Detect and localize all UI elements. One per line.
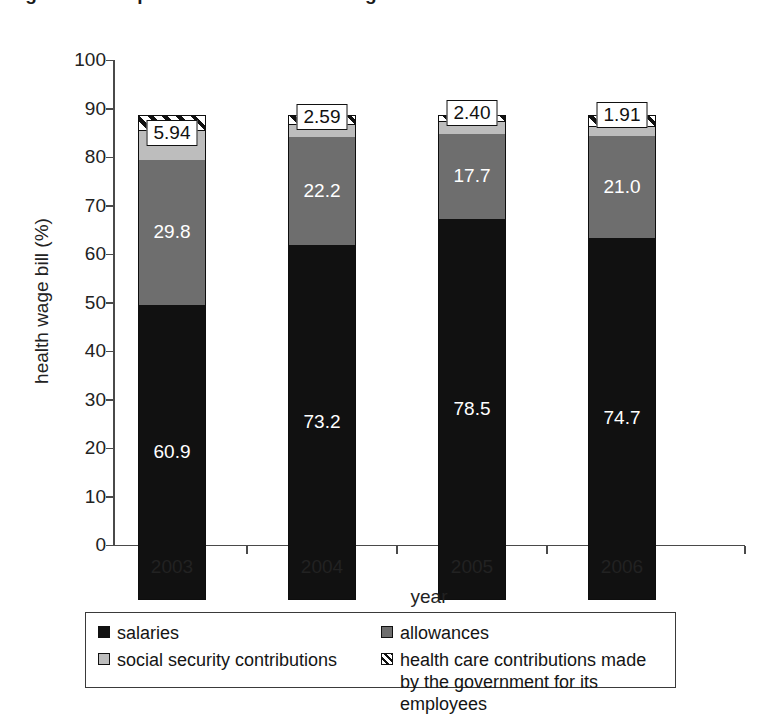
bar-value-social-2006: 1.91	[597, 102, 648, 128]
y-tick-mark-80	[106, 157, 113, 159]
bar-value-allowances-2005: 17.7	[439, 165, 505, 187]
y-tick-mark-40	[106, 351, 113, 353]
legend-item-health-care[interactable]: health care contributions made by the go…	[381, 649, 671, 715]
y-tick-label-100: 100	[60, 49, 106, 71]
chart-area: health wage bill (%) 100 90 80 70 60 50 …	[0, 0, 764, 600]
bar-segment-allowances-2005[interactable]: 17.7	[438, 134, 506, 220]
stacked-bar-2004[interactable]: 73.2 22.2 2.59	[288, 115, 356, 600]
legend-label-salaries: salaries	[117, 622, 179, 644]
y-tick-label-80: 80	[60, 146, 106, 168]
x-axis-label: year	[113, 586, 745, 608]
y-axis-line	[113, 60, 115, 546]
y-tick-label-90: 90	[60, 98, 106, 120]
bar-value-allowances-2006: 21.0	[589, 176, 655, 198]
bar-value-salaries-2006: 74.7	[589, 407, 655, 429]
x-tick-mark-2	[396, 546, 398, 554]
bar-value-salaries-2005: 78.5	[439, 398, 505, 420]
bar-group-2004[interactable]: 2.0 73.2 22.2 2.59	[288, 55, 356, 600]
y-tick-mark-10	[106, 496, 113, 498]
y-tick-mark-20	[106, 448, 113, 450]
y-tick-mark-0	[106, 545, 113, 547]
y-tick-label-60: 60	[60, 243, 106, 265]
x-tick-mark-1	[246, 546, 248, 554]
y-tick-label-20: 20	[60, 437, 106, 459]
y-tick-label-70: 70	[60, 195, 106, 217]
hatched-square-icon	[381, 653, 393, 665]
legend-item-social-security[interactable]: social security contributions	[98, 649, 368, 671]
gray-square-icon	[381, 626, 393, 638]
stacked-bar-2005[interactable]: 78.5 17.7 2.40	[438, 115, 506, 600]
bar-value-social-2004: 2.59	[297, 104, 348, 130]
x-tick-mark-3	[546, 546, 548, 554]
legend-item-salaries[interactable]: salaries	[98, 622, 368, 644]
y-tick-label-40: 40	[60, 340, 106, 362]
legend-column-right: allowances health care contributions mad…	[381, 622, 671, 718]
stacked-bar-2006[interactable]: 74.7 21.0 1.91	[588, 115, 656, 600]
bar-value-social-2003: 5.94	[147, 120, 198, 146]
y-axis-label: health wage bill (%)	[31, 111, 53, 491]
y-tick-mark-30	[106, 399, 113, 401]
chart-legend: salaries social security contributions a…	[85, 612, 676, 688]
y-tick-mark-50	[106, 302, 113, 304]
x-tick-label-2006: 2006	[562, 556, 682, 578]
bar-group-2006[interactable]: 2.4 74.7 21.0 1.91	[588, 55, 656, 600]
x-tick-label-2005: 2005	[412, 556, 532, 578]
y-tick-label-50: 50	[60, 292, 106, 314]
y-tick-mark-100	[106, 60, 113, 62]
black-square-icon	[98, 626, 110, 638]
bar-segment-salaries-2005[interactable]: 78.5	[438, 219, 506, 600]
bar-value-salaries-2003: 60.9	[139, 441, 205, 463]
stacked-bar-2003[interactable]: 60.9 29.8 5.94	[138, 115, 206, 600]
bar-value-allowances-2004: 22.2	[289, 180, 355, 202]
y-tick-mark-60	[106, 254, 113, 256]
y-tick-mark-70	[106, 205, 113, 207]
legend-column-left: salaries social security contributions	[98, 622, 368, 676]
legend-label-social-security: social security contributions	[117, 649, 337, 671]
y-tick-mark-90	[106, 108, 113, 110]
y-tick-label-10: 10	[60, 486, 106, 508]
y-tick-label-30: 30	[60, 389, 106, 411]
x-tick-mark-4	[744, 546, 746, 554]
bar-group-2003[interactable]: 3.3 60.9 29.8 5.94	[138, 55, 206, 600]
y-axis-ticks: 100 90 80 70 60 50 40 30 20 10 0	[54, 0, 106, 600]
bar-value-allowances-2003: 29.8	[139, 221, 205, 243]
bar-value-social-2005: 2.40	[447, 100, 498, 126]
bar-segment-allowances-2003[interactable]: 29.8	[138, 160, 206, 305]
x-tick-label-2004: 2004	[262, 556, 382, 578]
light-gray-square-icon	[98, 653, 110, 665]
x-tick-label-2003: 2003	[112, 556, 232, 578]
legend-label-allowances: allowances	[400, 622, 489, 644]
bar-value-salaries-2004: 73.2	[289, 411, 355, 433]
legend-label-health-care: health care contributions made by the go…	[400, 649, 662, 715]
y-tick-label-0: 0	[60, 534, 106, 556]
legend-item-allowances[interactable]: allowances	[381, 622, 671, 644]
bar-segment-salaries-2006[interactable]: 74.7	[588, 238, 656, 600]
bar-segment-allowances-2006[interactable]: 21.0	[588, 136, 656, 238]
bar-segment-salaries-2004[interactable]: 73.2	[288, 245, 356, 600]
bar-group-2005[interactable]: 1.4 78.5 17.7 2.40	[438, 55, 506, 600]
bar-segment-allowances-2004[interactable]: 22.2	[288, 137, 356, 245]
